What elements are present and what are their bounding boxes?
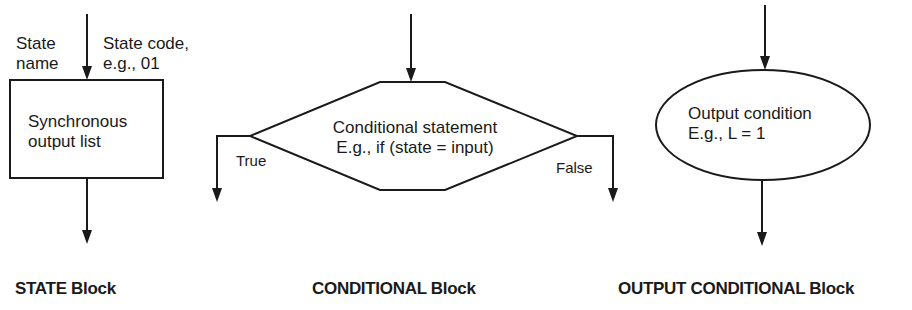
arrowhead-icon xyxy=(760,56,770,70)
arrowhead-icon xyxy=(82,230,92,244)
state-block-title: STATE Block xyxy=(15,279,116,299)
arrowhead-icon xyxy=(757,232,767,246)
true-label: True xyxy=(236,151,266,171)
arrowhead-icon xyxy=(608,188,618,202)
state-code-label: State code, e.g., 01 xyxy=(103,34,189,74)
state-code-line-1: State code, xyxy=(103,34,189,54)
state-code-line-2: e.g., 01 xyxy=(103,54,189,74)
conditional-line-2: E.g., if (state = input) xyxy=(300,138,530,158)
output-line-2: E.g., L = 1 xyxy=(688,124,812,144)
arrowhead-icon xyxy=(212,188,222,202)
arrowhead-icon xyxy=(82,66,92,80)
state-name-label: State name xyxy=(16,34,59,74)
false-label: False xyxy=(556,158,593,178)
state-box-line-2: output list xyxy=(28,132,127,152)
state-name-line-2: name xyxy=(16,54,59,74)
state-box-line-1: Synchronous xyxy=(28,112,127,132)
output-line-1: Output condition xyxy=(688,104,812,124)
conditional-block-title: CONDITIONAL Block xyxy=(312,279,476,299)
state-box-text: Synchronous output list xyxy=(28,112,127,152)
conditional-statement-text: Conditional statement E.g., if (state = … xyxy=(300,118,530,158)
conditional-line-1: Conditional statement xyxy=(300,118,530,138)
arrowhead-icon xyxy=(406,68,416,82)
output-conditional-block-title: OUTPUT CONDITIONAL Block xyxy=(618,279,854,299)
output-condition-text: Output condition E.g., L = 1 xyxy=(688,104,812,144)
state-name-line-1: State xyxy=(16,34,59,54)
